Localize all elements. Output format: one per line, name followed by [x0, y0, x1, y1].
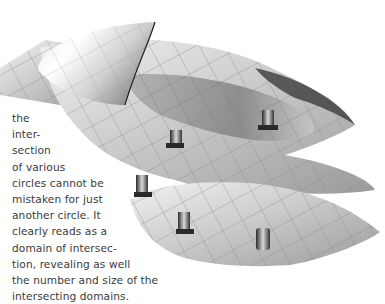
chair-object: [256, 228, 270, 250]
caption-line: another circle. It: [12, 207, 158, 223]
caption-line: section: [12, 142, 158, 158]
caption-line: intersecting domains.: [12, 288, 158, 304]
caption-line: clearly reads as a: [12, 223, 158, 239]
caption-line: of various: [12, 159, 158, 175]
caption-line: domain of intersec-: [12, 240, 158, 256]
caption-line: mistaken for just: [12, 191, 158, 207]
caption-line: tion, revealing as well: [12, 256, 158, 272]
caption-line: inter-: [12, 126, 158, 142]
caption-text: the inter- section of various circles ca…: [12, 110, 158, 304]
caption-line: the number and size of the: [12, 272, 158, 288]
caption-line: the: [12, 110, 158, 126]
caption-line: circles cannot be: [12, 175, 158, 191]
